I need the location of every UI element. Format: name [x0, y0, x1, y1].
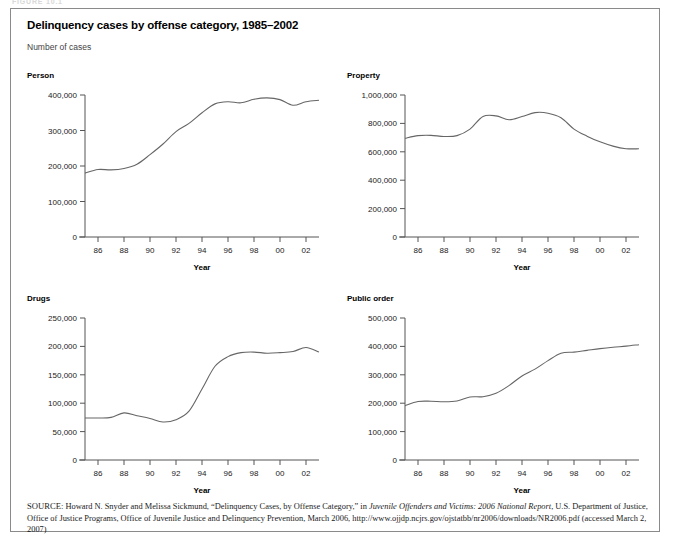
chart-property: Property 0200,000400,000600,000800,0001,… — [347, 71, 647, 281]
x-tick-label: 02 — [622, 246, 631, 255]
plot-drugs: 050,000100,000150,000200,000250,00086889… — [27, 308, 327, 508]
x-tick-label: 96 — [224, 246, 233, 255]
x-tick-label: 88 — [120, 246, 129, 255]
page-title: Delinquency cases by offense category, 1… — [27, 19, 298, 31]
source-text-1: Howard N. Snyder and Melissa Sickmund, “… — [63, 502, 369, 511]
source-italic-title: Juvenile Offenders and Victims: 2006 Nat… — [369, 502, 551, 511]
x-tick-label: 98 — [570, 246, 579, 255]
x-tick-label: 02 — [302, 469, 311, 478]
x-tick-label: 90 — [146, 469, 155, 478]
y-tick-label: 1,000,000 — [361, 91, 397, 100]
chart-title-public-order: Public order — [347, 294, 394, 303]
plot-public-order: 0100,000200,000300,000400,000500,0008688… — [347, 308, 647, 508]
chart-svg: 050,000100,000150,000200,000250,00086889… — [27, 308, 327, 504]
y-tick-label: 100,000 — [368, 428, 397, 437]
y-tick-label: 0 — [393, 456, 398, 465]
x-tick-label: 00 — [276, 246, 285, 255]
x-tick-label: 96 — [544, 469, 553, 478]
x-tick-label: 88 — [440, 246, 449, 255]
y-tick-label: 200,000 — [48, 342, 77, 351]
x-tick-label: 86 — [414, 246, 423, 255]
source-note: SOURCE: Howard N. Snyder and Melissa Sic… — [27, 501, 649, 536]
x-tick-label: 94 — [198, 246, 207, 255]
chart-public-order: Public order 0100,000200,000300,000400,0… — [347, 294, 647, 504]
chart-person: Person 0100,000200,000300,000400,0008688… — [27, 71, 327, 281]
chart-title-person: Person — [27, 71, 54, 80]
y-tick-label: 400,000 — [48, 91, 77, 100]
data-series-line — [85, 348, 319, 422]
x-tick-label: 94 — [518, 469, 527, 478]
x-tick-label: 92 — [172, 469, 181, 478]
x-tick-label: 94 — [198, 469, 207, 478]
x-tick-label: 86 — [414, 469, 423, 478]
y-tick-label: 250,000 — [48, 314, 77, 323]
x-tick-label: 00 — [276, 469, 285, 478]
y-tick-label: 0 — [393, 233, 398, 242]
chart-svg: 0100,000200,000300,000400,00086889092949… — [27, 85, 327, 281]
y-tick-label: 200,000 — [368, 399, 397, 408]
page-subtitle: Number of cases — [27, 42, 91, 52]
y-tick-label: 400,000 — [368, 342, 397, 351]
data-series-line — [405, 112, 639, 149]
chart-drugs: Drugs 050,000100,000150,000200,000250,00… — [27, 294, 327, 504]
x-tick-label: 92 — [172, 246, 181, 255]
y-tick-label: 400,000 — [368, 176, 397, 185]
data-series-line — [405, 345, 639, 406]
y-tick-label: 100,000 — [48, 198, 77, 207]
y-tick-label: 100,000 — [48, 399, 77, 408]
chart-title-property: Property — [347, 71, 380, 80]
x-axis-title: Year — [514, 263, 531, 272]
y-tick-label: 0 — [73, 456, 78, 465]
x-tick-label: 94 — [518, 246, 527, 255]
figure-label: FIGURE 10.1 — [12, 0, 63, 5]
x-tick-label: 98 — [250, 246, 259, 255]
y-tick-label: 800,000 — [368, 119, 397, 128]
x-axis-title: Year — [514, 486, 531, 495]
x-tick-label: 98 — [250, 469, 259, 478]
x-axis-title: Year — [194, 263, 211, 272]
x-axis-title: Year — [194, 486, 211, 495]
x-tick-label: 92 — [492, 246, 501, 255]
x-tick-label: 90 — [146, 246, 155, 255]
y-tick-label: 300,000 — [48, 127, 77, 136]
chart-svg: 0200,000400,000600,000800,0001,000,00086… — [347, 85, 647, 281]
y-tick-label: 0 — [73, 233, 78, 242]
y-tick-label: 200,000 — [48, 162, 77, 171]
y-tick-label: 600,000 — [368, 148, 397, 157]
x-tick-label: 98 — [570, 469, 579, 478]
y-tick-label: 500,000 — [368, 314, 397, 323]
x-tick-label: 90 — [466, 469, 475, 478]
y-tick-label: 200,000 — [368, 205, 397, 214]
x-tick-label: 00 — [596, 469, 605, 478]
chart-title-drugs: Drugs — [27, 294, 50, 303]
chart-svg: 0100,000200,000300,000400,000500,0008688… — [347, 308, 647, 504]
y-tick-label: 300,000 — [368, 371, 397, 380]
figure-panel: Delinquency cases by offense category, 1… — [10, 8, 660, 532]
x-tick-label: 90 — [466, 246, 475, 255]
plot-property: 0200,000400,000600,000800,0001,000,00086… — [347, 85, 647, 285]
x-tick-label: 88 — [120, 469, 129, 478]
x-tick-label: 02 — [302, 246, 311, 255]
x-tick-label: 88 — [440, 469, 449, 478]
y-tick-label: 150,000 — [48, 371, 77, 380]
x-tick-label: 86 — [94, 246, 103, 255]
data-series-line — [85, 98, 319, 173]
plot-person: 0100,000200,000300,000400,00086889092949… — [27, 85, 327, 285]
x-tick-label: 86 — [94, 469, 103, 478]
source-prefix: SOURCE: — [27, 501, 63, 511]
x-tick-label: 96 — [544, 246, 553, 255]
y-tick-label: 50,000 — [53, 428, 78, 437]
x-tick-label: 00 — [596, 246, 605, 255]
x-tick-label: 96 — [224, 469, 233, 478]
x-tick-label: 02 — [622, 469, 631, 478]
x-tick-label: 92 — [492, 469, 501, 478]
